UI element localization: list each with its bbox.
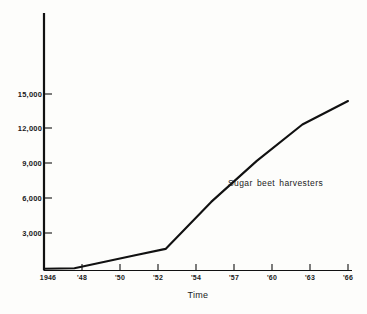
y-tick-label-3000: 3,000: [4, 229, 42, 238]
x-tick-label-57: '57: [229, 274, 239, 281]
y-tick-label-15000: 15,000: [4, 90, 42, 99]
x-axis-title: Time: [188, 290, 209, 300]
x-tick-label-66: '66: [343, 274, 353, 281]
x-tick-label-50: '50: [115, 274, 125, 281]
x-tick-label-54: '54: [191, 274, 201, 281]
x-tick-label-63: '63: [305, 274, 315, 281]
x-tick-label-52: '52: [153, 274, 163, 281]
y-axis-ticks: [44, 94, 52, 233]
y-tick-label-12000: 12,000: [4, 124, 42, 133]
x-tick-label-1946: 1946: [40, 274, 56, 281]
y-tick-label-9000: 9,000: [4, 159, 42, 168]
y-tick-label-6000: 6,000: [4, 194, 42, 203]
chart-plot-area: [0, 0, 367, 314]
x-tick-label-60: '60: [267, 274, 277, 281]
x-tick-label-48: '48: [77, 274, 87, 281]
series-annotation-sugar-beet-harvesters: Sugar beet harvesters: [228, 178, 323, 188]
line-chart-figure: 15,000 12,000 9,000 6,000 3,000 1946 '48…: [0, 0, 367, 314]
